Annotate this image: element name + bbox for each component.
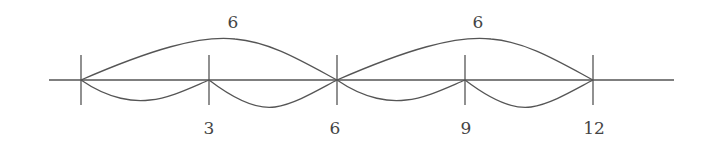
upper-jump-label-1: 6 — [228, 12, 239, 32]
tick-label-3: 3 — [204, 118, 215, 138]
lower-arc-6-9 — [337, 80, 465, 101]
lower-arc-0-3 — [81, 80, 209, 101]
number-line-diagram: 6 6 3 6 9 12 — [0, 0, 711, 145]
tick-label-12: 12 — [583, 118, 605, 138]
lower-arc-9-12 — [465, 80, 593, 107]
tick-label-6: 6 — [330, 118, 341, 138]
tick-label-9: 9 — [461, 118, 472, 138]
upper-jump-label-2: 6 — [473, 12, 484, 32]
lower-arc-3-6 — [209, 80, 337, 107]
